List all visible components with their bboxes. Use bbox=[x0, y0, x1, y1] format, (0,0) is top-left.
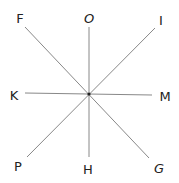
label-M: M bbox=[159, 90, 170, 103]
line-F-G bbox=[25, 27, 149, 158]
diagram-canvas bbox=[0, 0, 179, 183]
line-I-P bbox=[27, 28, 155, 157]
label-I: I bbox=[159, 14, 163, 27]
label-G: G bbox=[154, 162, 164, 175]
label-F: F bbox=[16, 12, 23, 25]
label-K: K bbox=[10, 89, 19, 102]
label-O: O bbox=[84, 12, 94, 25]
label-H: H bbox=[83, 163, 93, 176]
label-P: P bbox=[14, 160, 22, 173]
center-point bbox=[87, 92, 90, 95]
